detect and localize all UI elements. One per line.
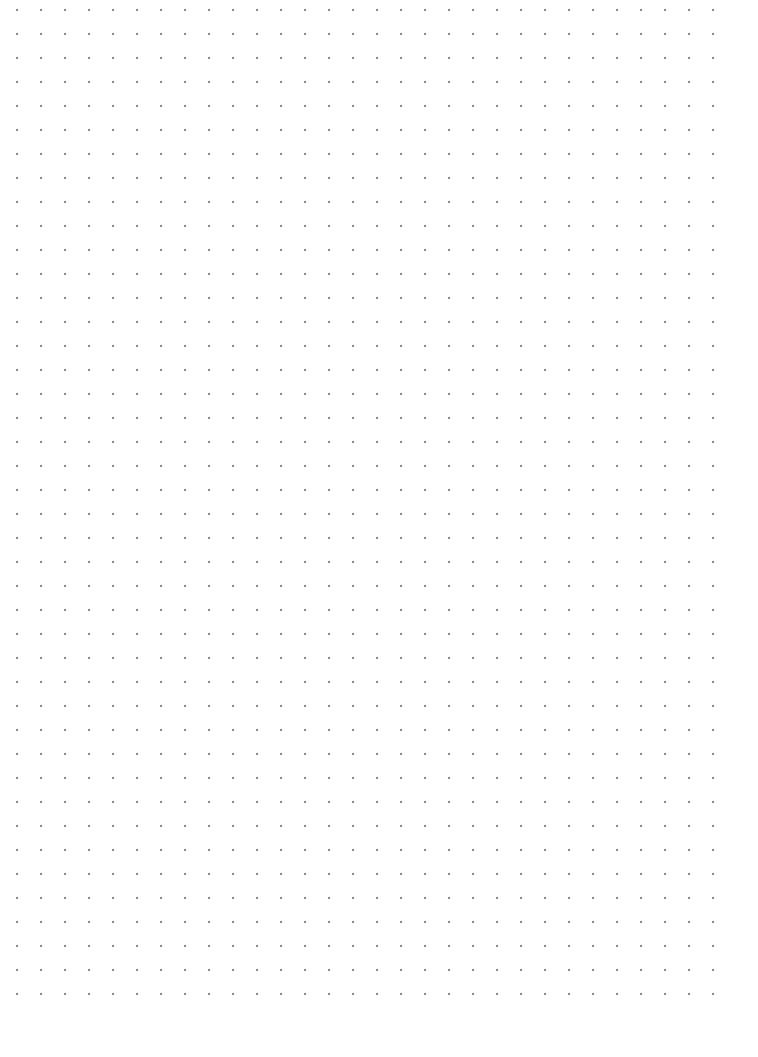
dot-grid-page — [0, 0, 758, 1057]
dot-grid-pattern — [0, 0, 719, 995]
paper-sheet — [0, 0, 758, 1057]
